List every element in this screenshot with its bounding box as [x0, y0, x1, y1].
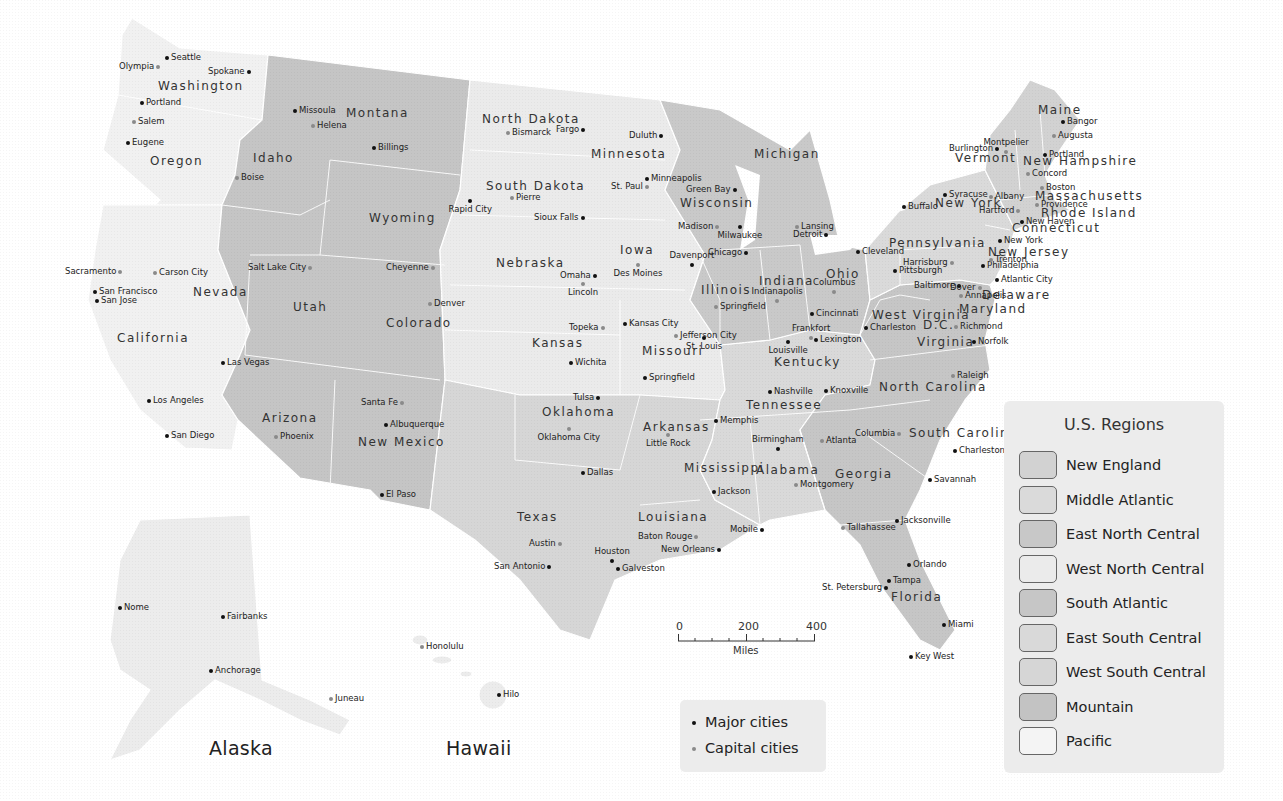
capital-city-dot-icon [567, 427, 571, 431]
scale-ruler [678, 633, 818, 643]
city-label: Memphis [720, 416, 758, 425]
city-label: Chicago [708, 248, 742, 257]
city-label: Spokane [208, 67, 245, 76]
city-label: Indianapolis [752, 287, 803, 296]
major-city-dot-icon [744, 251, 748, 255]
legend-item: Middle Atlantic [1019, 486, 1224, 516]
state-label: South Carolina [909, 427, 1018, 439]
major-city-dot-icon [864, 326, 868, 330]
legend-capital-cities: Capital cities [692, 740, 799, 756]
legend-title: U.S. Regions [1004, 415, 1224, 434]
city-label: Minneapolis [651, 174, 702, 183]
city-label: Augusta [1058, 131, 1093, 140]
state-label: North Carolina [879, 381, 987, 393]
capital-city-dot-icon [153, 271, 157, 275]
city-label: Missoula [299, 106, 336, 115]
city-label: Orlando [913, 560, 947, 569]
capital-city-dot-icon [132, 120, 136, 124]
city-label: Santa Fe [361, 398, 398, 407]
major-city-dot-icon [907, 563, 911, 567]
city-label: Birmingham [752, 435, 804, 444]
major-city-dot-icon [714, 419, 718, 423]
major-city-dot-icon [547, 565, 551, 569]
city-label: Miami [948, 620, 974, 629]
scale-tick-400: 400 [806, 620, 827, 633]
city-label: Des Moines [614, 269, 663, 278]
capital-city-dot-icon [308, 266, 312, 270]
city-label: Houston [595, 547, 630, 556]
major-city-dot-icon [943, 193, 947, 197]
major-city-dot-icon [616, 567, 620, 571]
major-city-dot-icon [645, 177, 649, 181]
major-city-dot-icon [1061, 120, 1065, 124]
capital-city-dot-icon [692, 747, 696, 751]
major-city-dot-icon [998, 239, 1002, 243]
major-city-dot-icon [581, 471, 585, 475]
state-label: New Mexico [358, 436, 445, 448]
legend-item: West North Central [1019, 555, 1224, 585]
hawaii-label: Hawaii [446, 737, 511, 759]
city-label: Raleigh [957, 371, 989, 380]
state-label: Nevada [193, 286, 248, 298]
state-label: Oklahoma [542, 406, 615, 418]
major-city-dot-icon [776, 447, 780, 451]
city-label: Lincoln [568, 288, 598, 297]
city-label: St. Paul [611, 182, 643, 191]
major-city-dot-icon [1043, 153, 1047, 157]
capital-city-dot-icon [420, 645, 424, 649]
major-city-dot-icon [596, 396, 600, 400]
city-label: Montgomery [800, 480, 854, 489]
scale-bar: 0 200 400 Miles [672, 620, 832, 660]
city-label: Columbus [813, 278, 855, 287]
legend-item: East North Central [1019, 520, 1224, 550]
city-label: Portland [146, 98, 181, 107]
city-label: Sioux Falls [534, 213, 579, 222]
major-city-dot-icon [372, 146, 376, 150]
city-label: El Paso [386, 490, 416, 499]
major-city-dot-icon [126, 141, 130, 145]
legend-swatch-icon [1019, 486, 1057, 514]
city-label: Savannah [934, 475, 976, 484]
major-city-dot-icon [165, 434, 169, 438]
state-label: Colorado [386, 317, 452, 329]
major-city-dot-icon [738, 225, 742, 229]
city-label: Los Angeles [153, 396, 204, 405]
major-city-dot-icon [824, 389, 828, 393]
legend-label: Mountain [1066, 699, 1134, 715]
state-label: Idaho [253, 152, 294, 164]
city-label: Anchorage [215, 666, 261, 675]
capital-city-dot-icon [1052, 134, 1056, 138]
capital-city-dot-icon [1035, 203, 1039, 207]
capital-city-dot-icon [832, 290, 836, 294]
city-label: Harrisburg [903, 258, 948, 267]
major-city-dot-icon [1020, 220, 1024, 224]
capital-city-dot-icon [951, 374, 955, 378]
city-label: Bismarck [512, 128, 551, 137]
city-label: Billings [378, 143, 409, 152]
capital-city-dot-icon [775, 299, 779, 303]
capital-city-dot-icon [274, 435, 278, 439]
city-label: Charleston [870, 323, 916, 332]
state-label: Michigan [754, 148, 820, 160]
legend-label: East North Central [1066, 526, 1200, 542]
major-city-dot-icon [659, 134, 663, 138]
major-city-dot-icon [953, 449, 957, 453]
major-city-dot-icon [581, 216, 585, 220]
city-label: Tulsa [573, 393, 594, 402]
city-label: Austin [529, 539, 556, 548]
state-label: Arkansas [643, 421, 710, 433]
major-city-dot-icon [690, 263, 694, 267]
city-label: Salem [138, 117, 164, 126]
major-city-dot-icon [610, 559, 614, 563]
city-label: Providence [1041, 200, 1088, 209]
capital-city-dot-icon [959, 294, 963, 298]
major-city-dot-icon [995, 147, 999, 151]
state-label: Florida [891, 591, 942, 603]
major-city-dot-icon [384, 423, 388, 427]
major-city-dot-icon [712, 490, 716, 494]
capital-city-dot-icon [156, 65, 160, 69]
major-city-dot-icon [760, 528, 764, 532]
city-label: Denver [434, 299, 465, 308]
city-label: Nome [124, 603, 149, 612]
city-label: Galveston [622, 564, 665, 573]
